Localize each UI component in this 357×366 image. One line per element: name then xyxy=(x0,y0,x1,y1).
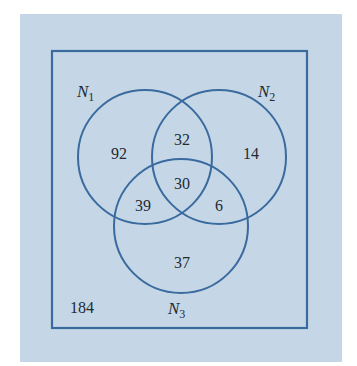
venn-diagram: N1 N2 N3 92 14 37 32 39 6 30 184 xyxy=(0,0,357,366)
set-n1-label: N1 xyxy=(76,82,94,104)
region-n1-n2: 32 xyxy=(174,131,190,148)
region-only-n2: 14 xyxy=(243,145,259,162)
region-n2-n3: 6 xyxy=(215,197,223,214)
region-n1-n3: 39 xyxy=(135,197,151,214)
region-n1-n2-n3: 30 xyxy=(174,175,190,192)
region-outside: 184 xyxy=(70,299,94,316)
set-n3-label: N3 xyxy=(167,299,185,321)
set-n2-label: N2 xyxy=(257,82,275,104)
region-only-n1: 92 xyxy=(111,145,127,162)
region-only-n3: 37 xyxy=(174,254,190,271)
